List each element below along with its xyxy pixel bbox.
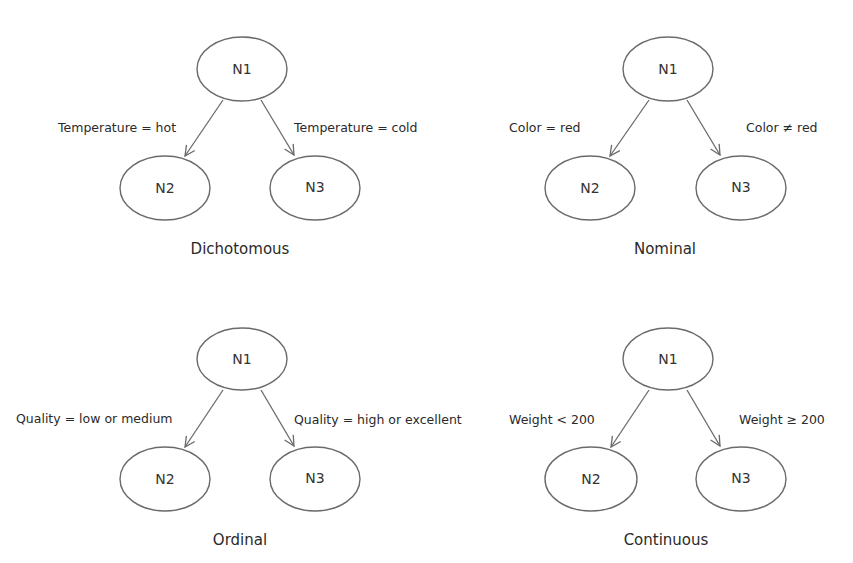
edge-label-left: Temperature = hot	[58, 122, 176, 135]
node-n2-label: N2	[155, 181, 174, 195]
edge-right-arrow	[261, 100, 294, 155]
diagram-title: Continuous	[624, 533, 709, 548]
diagram-canvas	[0, 0, 853, 563]
edge-label-left: Color = red	[509, 122, 581, 135]
edge-right-arrow	[687, 100, 720, 155]
node-n1-label: N1	[658, 62, 677, 76]
node-n3-label: N3	[305, 180, 324, 194]
edge-left-arrow	[610, 100, 649, 156]
edge-left-arrow	[185, 100, 223, 156]
edge-label-left: Weight < 200	[509, 414, 595, 427]
diagram-title: Ordinal	[213, 533, 267, 548]
node-n3-label: N3	[731, 180, 750, 194]
diagram-title: Nominal	[634, 242, 696, 257]
edge-label-right: Color ≠ red	[746, 122, 818, 135]
node-n2-label: N2	[580, 181, 599, 195]
edge-label-right: Weight ≥ 200	[739, 414, 825, 427]
node-n3-label: N3	[305, 471, 324, 485]
edge-left-arrow	[185, 390, 223, 447]
edge-right-arrow	[687, 390, 720, 446]
node-n2-label: N2	[581, 472, 600, 486]
node-n2-label: N2	[155, 472, 174, 486]
node-n1-label: N1	[232, 62, 251, 76]
edge-label-left: Quality = low or medium	[16, 413, 173, 426]
edge-label-right: Quality = high or excellent	[294, 414, 462, 427]
node-n1-label: N1	[232, 352, 251, 366]
diagram-title: Dichotomous	[191, 242, 290, 257]
edge-label-right: Temperature = cold	[294, 122, 418, 135]
node-n3-label: N3	[731, 471, 750, 485]
edge-right-arrow	[261, 390, 294, 446]
edge-left-arrow	[611, 390, 649, 447]
node-n1-label: N1	[658, 352, 677, 366]
